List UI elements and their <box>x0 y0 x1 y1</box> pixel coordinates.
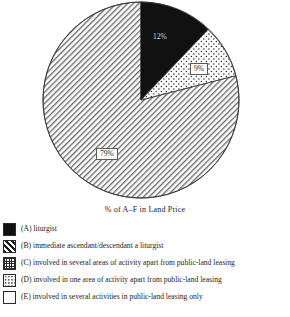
legend-swatch-dense-checker-icon <box>3 257 16 270</box>
legend-label-a: (A) liturgist <box>21 225 57 233</box>
legend-label-b: (B) immediate ascendant/descendant a lit… <box>21 242 163 250</box>
legend-item-a: (A) liturgist <box>3 221 290 238</box>
legend-item-e: (E) involved in several activities in pu… <box>3 289 290 306</box>
pie-chart-figure: 12% 9% 79% <box>0 0 290 205</box>
pie-chart-svg <box>0 0 290 205</box>
legend-label-e: (E) involved in several activities in pu… <box>21 293 203 301</box>
pie-label-a: 12% <box>153 33 167 41</box>
legend-label-c: (C) involved in several areas of activit… <box>21 259 235 267</box>
legend-swatch-diagonal-stripes-icon <box>3 240 16 253</box>
chart-caption: % of A–F in Land Price <box>0 205 290 214</box>
legend-item-d: (D) involved in one area of activity apa… <box>3 272 290 289</box>
legend-swatch-sparse-dots-icon <box>3 274 16 287</box>
legend-item-c: (C) involved in several areas of activit… <box>3 255 290 272</box>
pie-label-e: 79% <box>96 148 118 160</box>
pie-label-d: 9% <box>190 63 208 75</box>
legend-item-b: (B) immediate ascendant/descendant a lit… <box>3 238 290 255</box>
legend-swatch-empty-white-icon <box>3 291 16 304</box>
legend-swatch-solid-black-icon <box>3 223 16 236</box>
legend-label-d: (D) involved in one area of activity apa… <box>21 276 222 284</box>
chart-legend: (A) liturgist (B) immediate ascendant/de… <box>3 221 290 306</box>
